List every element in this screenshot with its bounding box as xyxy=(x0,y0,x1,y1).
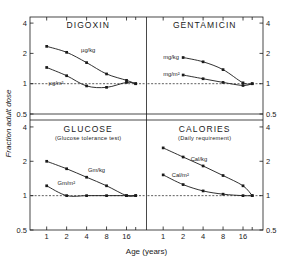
panel-subtitle-calories: (Daily requirement) xyxy=(178,135,231,141)
svg-text:1: 1 xyxy=(161,232,165,241)
series-label-gentamicin-0: mg/kg xyxy=(163,54,179,60)
svg-text:2: 2 xyxy=(65,232,69,241)
panel-title-calories: CALORIES xyxy=(179,124,231,134)
series-label-calories-0: Cal/kg xyxy=(191,156,207,162)
x-axis-title: Age (years) xyxy=(126,247,168,256)
svg-text:4: 4 xyxy=(266,19,270,28)
svg-text:4: 4 xyxy=(23,123,27,132)
svg-text:1: 1 xyxy=(23,191,27,200)
svg-text:2: 2 xyxy=(23,157,27,166)
svg-text:0.5: 0.5 xyxy=(17,226,27,235)
panel-subtitle-glucose: (Glucose tolerance test) xyxy=(55,135,122,141)
svg-text:2: 2 xyxy=(181,232,185,241)
svg-text:4: 4 xyxy=(85,232,89,241)
svg-text:2: 2 xyxy=(23,49,27,58)
svg-text:1: 1 xyxy=(266,191,270,200)
svg-text:0.5: 0.5 xyxy=(17,110,27,119)
svg-text:16: 16 xyxy=(122,232,130,241)
svg-text:1: 1 xyxy=(266,79,270,88)
series-label-gentamicin-1: mg/m² xyxy=(163,71,179,77)
svg-text:1: 1 xyxy=(23,79,27,88)
svg-text:4: 4 xyxy=(201,232,205,241)
data-curves xyxy=(45,45,253,197)
svg-text:4: 4 xyxy=(266,123,270,132)
figure-root: 4422110.50.54422110.50.5124816124816DIGO… xyxy=(0,0,282,268)
series-label-glucose-1: Gm/m² xyxy=(57,180,75,186)
series-label-glucose-0: Gm/kg xyxy=(88,167,105,173)
panel-title-glucose: GLUCOSE xyxy=(64,124,113,134)
svg-text:1: 1 xyxy=(45,232,49,241)
y-axis-title: Fraction adult dose xyxy=(4,89,13,158)
panel-title-gentamicin: GENTAMICIN xyxy=(173,20,237,30)
svg-text:2: 2 xyxy=(266,49,270,58)
svg-text:8: 8 xyxy=(104,232,108,241)
figure-text: 4422110.50.54422110.50.5124816124816DIGO… xyxy=(4,19,276,256)
svg-text:0.5: 0.5 xyxy=(266,110,276,119)
series-label-calories-1: Cal/m² xyxy=(172,172,189,178)
panel-title-digoxin: DIGOXIN xyxy=(66,20,110,30)
svg-text:2: 2 xyxy=(266,157,270,166)
series-label-digoxin-1: µg/m² xyxy=(49,80,64,86)
svg-text:4: 4 xyxy=(23,19,27,28)
svg-text:16: 16 xyxy=(239,232,247,241)
svg-text:8: 8 xyxy=(221,232,225,241)
series-label-digoxin-0: µg/kg xyxy=(81,47,95,53)
svg-text:0.5: 0.5 xyxy=(266,226,276,235)
